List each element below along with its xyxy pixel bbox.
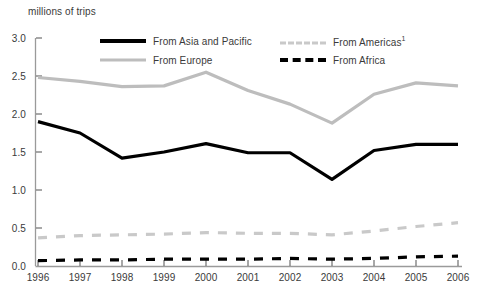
legend-swatch-americas-icon xyxy=(280,38,326,48)
series-line-from-asia-and-pacific xyxy=(38,122,458,180)
legend-item-from-europe[interactable]: From Europe xyxy=(100,54,212,66)
legend-footnote-marker-americas: 1 xyxy=(402,35,406,42)
series-line-from-africa xyxy=(38,256,458,261)
legend-item-from-asia-and-pacific[interactable]: From Asia and Pacific xyxy=(100,35,252,47)
chart-container: millions of trips 3.0 2.5 2.0 1.5 1.0 0.… xyxy=(0,0,497,291)
legend-label-americas: From Americas xyxy=(333,37,402,48)
legend-label-asia-pacific: From Asia and Pacific xyxy=(153,36,252,47)
legend-label-africa: From Africa xyxy=(333,55,385,66)
legend-swatch-europe-icon xyxy=(100,55,146,65)
legend-item-from-africa[interactable]: From Africa xyxy=(280,54,385,66)
legend-swatch-africa-icon xyxy=(280,55,326,65)
series-line-from-americas xyxy=(38,223,458,238)
legend-swatch-asia-pacific-icon xyxy=(100,36,146,46)
legend-label-europe: From Europe xyxy=(153,55,212,66)
series-lines xyxy=(38,72,458,260)
x-ticks xyxy=(38,260,458,266)
legend-item-from-americas[interactable]: From Americas1 xyxy=(280,35,406,48)
series-line-from-europe xyxy=(38,72,458,123)
y-ticks xyxy=(36,38,42,228)
